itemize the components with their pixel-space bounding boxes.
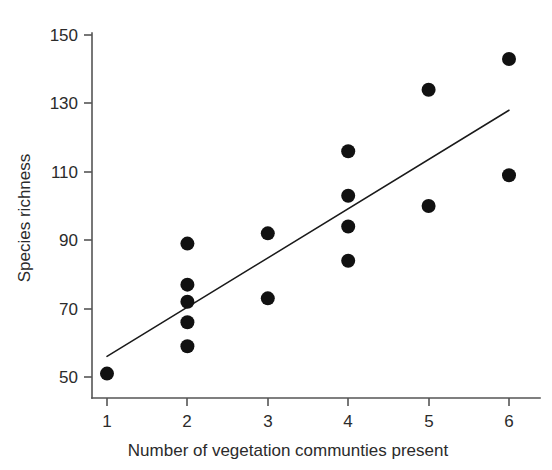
- x-tick-label-3: 3: [263, 412, 272, 431]
- data-point: [180, 339, 194, 353]
- x-tick-label-4: 4: [343, 412, 352, 431]
- data-point: [180, 237, 194, 251]
- y-tick-label-90: 90: [59, 231, 78, 250]
- data-point: [180, 295, 194, 309]
- x-tick-labels: 1 2 3 4 5 6: [102, 412, 513, 431]
- plot-canvas: 150 130 110 90 70 50 1 2 3 4 5 6 Number …: [0, 0, 552, 470]
- y-tick-labels: 150 130 110 90 70 50: [50, 26, 78, 387]
- data-point: [502, 168, 516, 182]
- data-point: [341, 144, 355, 158]
- data-points-layer: [100, 52, 516, 381]
- y-axis-title: Species richness: [15, 154, 34, 283]
- y-tick-label-70: 70: [59, 300, 78, 319]
- y-tick-label-110: 110: [51, 163, 78, 182]
- x-tick-label-6: 6: [504, 412, 513, 431]
- y-tick-label-150: 150: [50, 26, 78, 45]
- data-point: [180, 278, 194, 292]
- data-point: [100, 367, 114, 381]
- data-point: [422, 83, 436, 97]
- y-tick-label-130: 130: [50, 94, 78, 113]
- data-point: [341, 220, 355, 234]
- x-tick-label-5: 5: [424, 412, 433, 431]
- x-axis-title: Number of vegetation communties present: [128, 441, 449, 460]
- data-point: [341, 189, 355, 203]
- scatter-plot-figure: 150 130 110 90 70 50 1 2 3 4 5 6 Number …: [0, 0, 552, 470]
- data-point: [180, 315, 194, 329]
- x-tick-marks: [107, 398, 509, 406]
- y-tick-label-50: 50: [59, 368, 78, 387]
- x-tick-label-1: 1: [102, 412, 111, 431]
- y-tick-marks: [84, 35, 92, 377]
- data-point: [422, 199, 436, 213]
- data-point: [261, 226, 275, 240]
- data-point: [341, 254, 355, 268]
- x-tick-label-2: 2: [182, 412, 191, 431]
- regression-trendline: [107, 110, 509, 356]
- data-point: [261, 291, 275, 305]
- data-point: [502, 52, 516, 66]
